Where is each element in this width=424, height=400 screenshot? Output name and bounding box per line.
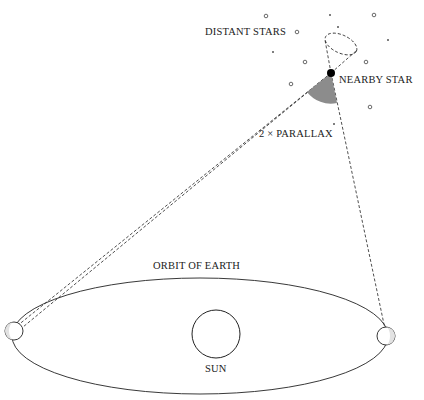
earth-right [377,327,395,345]
parallax-diagram: DISTANT STARS NEARBY STAR 2 × PARALLAX O… [0,0,424,400]
sun [192,310,240,358]
nearby-star [327,69,335,77]
earth-left [5,322,23,340]
earth-orbit [12,278,388,394]
label-orbit: ORBIT OF EARTH [153,260,240,271]
label-sun: SUN [205,363,227,374]
parallax-angle-sector [307,73,337,104]
label-parallax: 2 × PARALLAX [259,128,333,139]
label-nearby-star: NEARBY STAR [339,74,413,85]
label-distant-stars: DISTANT STARS [205,26,286,37]
